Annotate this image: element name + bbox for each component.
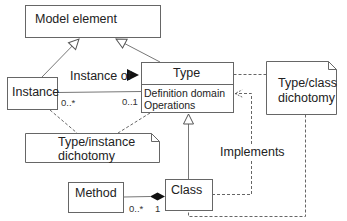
association-instance-of: [58, 92, 142, 93]
implements-label: Implements: [220, 145, 285, 159]
generalization-type-model-element: [116, 39, 160, 62]
method-multiplicity: 0..*: [129, 204, 143, 214]
method-label: Method: [75, 186, 117, 200]
composition-method-class: [124, 197, 151, 198]
type-instance-note-line2: dichotomy: [58, 149, 115, 163]
composition-diamond-icon: [150, 193, 165, 201]
instance-label: Instance: [12, 85, 59, 99]
instance-multiplicity: 0..*: [61, 98, 75, 108]
class-label: Class: [171, 183, 202, 197]
type-attribute-operations: Operations: [144, 99, 195, 111]
type-multiplicity: 0..1: [122, 97, 138, 107]
note-connector-type: [118, 113, 150, 133]
instance-of-label: Instance of: [70, 69, 131, 83]
type-attribute-definition-domain: Definition domain: [144, 87, 225, 99]
type-class-note-line1: Type/class: [278, 76, 337, 90]
type-instance-note-line1: Type/instance: [58, 135, 135, 149]
note-connector-instance: [50, 110, 77, 133]
model-element-label: Model element: [35, 12, 117, 26]
type-class-note-line2: dichotomy: [278, 91, 335, 105]
class-multiplicity: 1: [155, 204, 160, 214]
type-label: Type: [173, 66, 200, 80]
